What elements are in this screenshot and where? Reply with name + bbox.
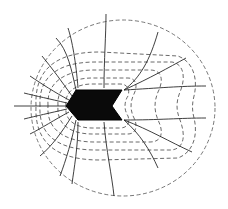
boundary-circle [31,20,215,196]
field-diagram [0,0,228,209]
electrode-shape [66,90,122,120]
